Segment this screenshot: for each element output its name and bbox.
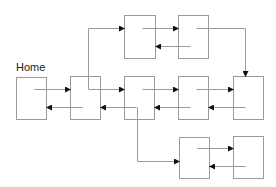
page-node-bot1 <box>180 138 210 179</box>
page-node-n5 <box>234 77 264 120</box>
page-node-top1 <box>125 16 156 59</box>
flow-diagram <box>0 0 276 187</box>
nodes-layer <box>17 16 264 179</box>
page-node-n4 <box>179 77 209 120</box>
page-node-n3 <box>125 77 155 120</box>
page-node-n2 <box>71 77 101 120</box>
page-node-top2 <box>179 16 209 59</box>
page-node-home <box>17 78 47 120</box>
page-node-bot2 <box>234 137 264 179</box>
